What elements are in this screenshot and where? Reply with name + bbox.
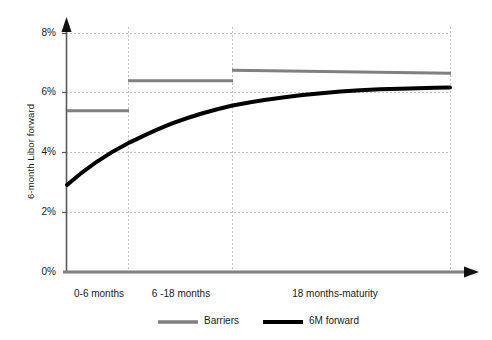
y-tick-label-8: 8% bbox=[22, 27, 56, 38]
legend-label-6m-forward: 6M forward bbox=[309, 315, 359, 326]
y-tick-label-0: 0% bbox=[22, 266, 56, 277]
legend-swatch-barriers bbox=[158, 318, 198, 326]
x-category-label-6-18-months: 6 -18 months bbox=[133, 288, 229, 299]
horizontal-gridlines bbox=[62, 34, 451, 213]
y-tick-label-4: 4% bbox=[22, 146, 56, 157]
y-axis bbox=[62, 17, 72, 273]
chart-container: 6-month Libor forward 8% 6% 4% 2% 0% 0-6… bbox=[0, 0, 492, 340]
legend-swatch-6m-forward bbox=[263, 318, 303, 326]
x-axis bbox=[63, 267, 479, 278]
x-category-label-0-6-months: 0-6 months bbox=[56, 288, 142, 299]
barrier-segment-3 bbox=[232, 70, 451, 73]
y-tick-label-2: 2% bbox=[22, 206, 56, 217]
y-tick-label-6: 6% bbox=[22, 86, 56, 97]
vertical-gridlines bbox=[129, 27, 451, 272]
x-category-label-18-months-maturity: 18 months-maturity bbox=[265, 288, 405, 299]
series-6m-forward bbox=[67, 88, 450, 186]
legend-label-barriers: Barriers bbox=[204, 315, 239, 326]
